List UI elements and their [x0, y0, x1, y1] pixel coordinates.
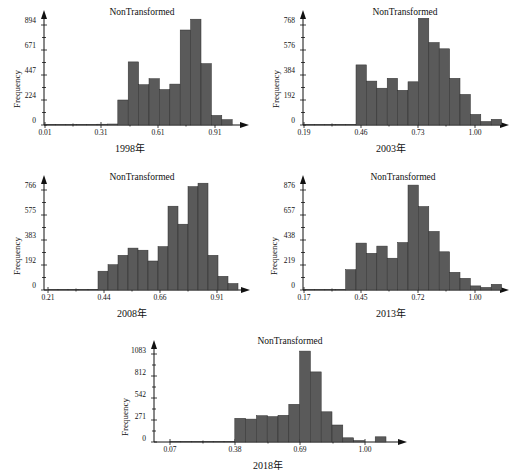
- histogram-panel-2003: NonTransformed Frequency 768 576 384 192…: [259, 0, 518, 160]
- x-axis-caption-2008: 2008年: [72, 305, 192, 320]
- histogram-bars: [48, 183, 238, 290]
- x-tick-label: 0.45: [346, 293, 376, 302]
- y-tick-label: 768: [273, 16, 295, 25]
- y-tick-label: 0: [273, 116, 295, 125]
- histogram-panel-2013: NonTransformed Frequency 876 657 438 219…: [259, 165, 518, 325]
- histogram-bars: [304, 185, 502, 290]
- y-tick-label: 575: [14, 206, 36, 215]
- y-tick-label: 576: [273, 41, 295, 50]
- x-tick-label: 0.19: [289, 128, 319, 137]
- x-tick-label: 1.00: [460, 293, 490, 302]
- x-tick-label: 0.73: [403, 128, 433, 137]
- y-tick-label: 219: [273, 256, 295, 265]
- x-tick-label: 0.61: [143, 128, 173, 137]
- plot-area-2013: [297, 173, 512, 293]
- x-axis-caption-1998: 1998年: [70, 140, 190, 155]
- y-tick-label: 192: [273, 91, 295, 100]
- y-tick-label: 224: [14, 91, 36, 100]
- y-tick-label: 384: [273, 66, 295, 75]
- y-axis-label-1998: Frequency: [12, 70, 22, 108]
- x-tick-label: 0.21: [33, 293, 63, 302]
- x-tick-label: 0.91: [202, 293, 232, 302]
- y-tick-label: 0: [273, 281, 295, 290]
- y-tick-label: 671: [14, 41, 36, 50]
- y-axis-label-2003: Frequency: [271, 70, 281, 108]
- x-tick-label: 0.31: [86, 128, 116, 137]
- y-tick-label: 438: [273, 231, 295, 240]
- x-tick-label: 1.00: [460, 128, 490, 137]
- plot-area-1998: [38, 8, 253, 128]
- x-tick-label: 0.01: [30, 128, 60, 137]
- plot-area-2003: [297, 8, 512, 128]
- x-axis-caption-2013: 2013年: [331, 305, 451, 320]
- x-tick-label: 0.46: [346, 128, 376, 137]
- plot-area-2008: [38, 173, 253, 293]
- y-tick-label: 0: [14, 281, 36, 290]
- histogram-bars: [170, 351, 386, 442]
- histogram-panel-1998: NonTransformed Frequency 894 671 447 224…: [0, 0, 259, 160]
- x-axis-caption-2003: 2003年: [331, 140, 451, 155]
- y-tick-label: 0: [120, 434, 146, 443]
- y-tick-label: 447: [14, 66, 36, 75]
- plot-area-2018: [148, 338, 428, 448]
- y-tick-label: 0: [14, 116, 36, 125]
- y-tick-label: 657: [273, 206, 295, 215]
- x-tick-label: 0.44: [89, 293, 119, 302]
- x-tick-label: 0.72: [403, 293, 433, 302]
- y-tick-label: 542: [120, 390, 146, 399]
- x-tick-label: 0.66: [145, 293, 175, 302]
- y-tick-label: 383: [14, 231, 36, 240]
- histogram-panel-2018: NonTransformed Frequency 1083 812 542 27…: [110, 332, 410, 471]
- y-tick-label: 1083: [120, 346, 146, 355]
- y-tick-label: 271: [120, 412, 146, 421]
- histogram-panel-2008: NonTransformed Frequency 766 575 383 192…: [0, 165, 259, 325]
- x-axis-caption-2018: 2018年: [208, 457, 328, 471]
- y-tick-label: 894: [14, 16, 36, 25]
- histogram-bars: [45, 19, 232, 125]
- y-tick-label: 192: [14, 256, 36, 265]
- y-tick-label: 766: [14, 181, 36, 190]
- y-tick-label: 812: [120, 368, 146, 377]
- histogram-bars: [304, 18, 502, 125]
- y-tick-label: 876: [273, 181, 295, 190]
- x-tick-label: 0.17: [289, 293, 319, 302]
- x-tick-label: 0.91: [200, 128, 230, 137]
